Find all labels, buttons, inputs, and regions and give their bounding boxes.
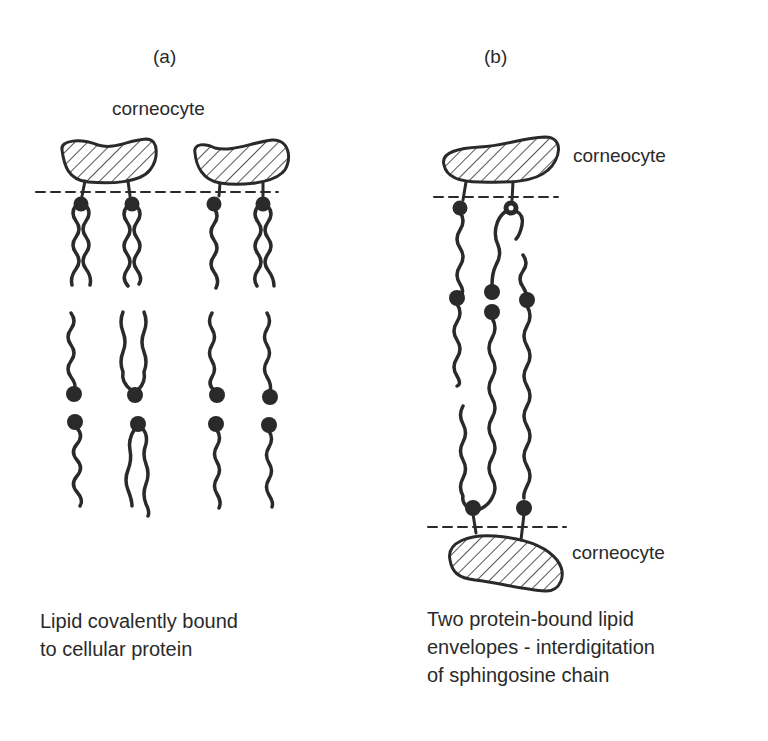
lipid-head-icon: [262, 389, 278, 405]
panel-a-drawing: [36, 139, 289, 516]
lipid-head-icon: [74, 197, 89, 212]
lipid-head-icon: [484, 304, 500, 320]
lipid-head-icon: [484, 284, 500, 300]
lipid-head-icon: [125, 197, 140, 212]
corneocyte-cell-icon: [195, 140, 289, 184]
lipid-head-icon: [449, 290, 465, 306]
lipid-head-icon: [67, 414, 83, 430]
lipid-head-icon: [127, 387, 143, 403]
corneocyte-cell-icon: [443, 137, 558, 182]
lipid-head-icon: [66, 386, 82, 402]
lipid-head-icon: [256, 197, 271, 212]
lipid-head-icon: [453, 201, 468, 216]
corneocyte-cell-icon: [62, 139, 156, 183]
lipid-envelope-diagram: [0, 0, 768, 741]
panel-b-drawing: [428, 137, 566, 591]
lipid-head-icon: [519, 292, 535, 308]
corneocyte-cell-icon: [450, 536, 563, 591]
lipid-head-icon: [207, 197, 222, 212]
lipid-head-icon: [209, 387, 225, 403]
